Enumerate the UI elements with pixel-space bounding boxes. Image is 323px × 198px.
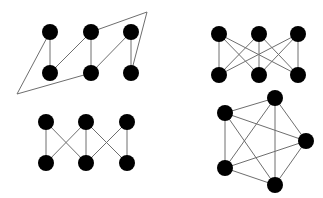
node-a2 (251, 26, 267, 42)
edge-v2-v3 (225, 113, 306, 141)
edge-v3-v5 (275, 141, 306, 185)
edge-b1-a2 (50, 32, 91, 73)
graph-4-k5-bottom-right (217, 90, 314, 193)
graph-1-top-left (17, 12, 147, 94)
node-b2 (78, 155, 94, 171)
node-a2 (78, 114, 94, 130)
node-v2 (217, 105, 233, 121)
node-v5 (267, 177, 283, 193)
node-a3 (290, 26, 306, 42)
edge-v2-v5 (225, 113, 275, 185)
node-b1 (42, 65, 58, 81)
node-b2 (251, 67, 267, 83)
graph-3-bottom-left (38, 114, 135, 171)
node-b3 (123, 65, 139, 81)
node-a3 (123, 24, 139, 40)
node-b3 (290, 67, 306, 83)
node-a1 (42, 24, 58, 40)
node-a1 (211, 26, 227, 42)
node-v3 (298, 133, 314, 149)
edge-a1-p2-b2 (17, 32, 91, 94)
node-b3 (119, 155, 135, 171)
edge-b2-a3 (91, 32, 131, 73)
node-a3 (119, 114, 135, 130)
node-b2 (83, 65, 99, 81)
node-a1 (38, 114, 54, 130)
edge-v3-v4 (225, 141, 306, 168)
node-v1 (267, 90, 283, 106)
graph-diagram-canvas (0, 0, 323, 198)
node-a2 (83, 24, 99, 40)
edge-v1-v4 (225, 98, 275, 168)
node-v4 (217, 160, 233, 176)
node-b1 (211, 67, 227, 83)
node-b1 (38, 155, 54, 171)
graph-2-k33-top-right (211, 26, 306, 83)
